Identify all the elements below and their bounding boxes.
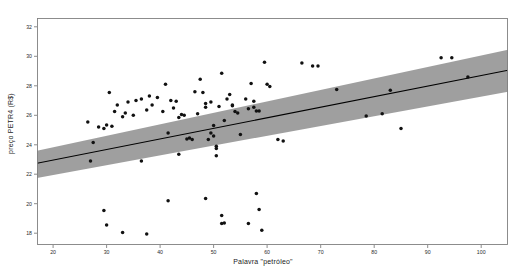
x-tick-label: 40 <box>157 249 163 255</box>
x-axis-title: Palavra "petróleo" <box>0 258 526 265</box>
data-point <box>169 99 173 103</box>
data-point <box>300 61 304 65</box>
data-point <box>389 88 393 92</box>
data-point <box>145 232 149 236</box>
data-point <box>132 114 136 118</box>
data-point <box>364 114 368 118</box>
x-tick-label: 100 <box>477 249 486 255</box>
data-point <box>166 131 170 135</box>
data-point <box>252 100 256 104</box>
data-point <box>196 112 200 116</box>
y-tick-label: 22 <box>26 171 32 177</box>
data-point <box>257 208 261 212</box>
data-point <box>150 103 154 107</box>
data-point <box>172 106 176 110</box>
data-point <box>228 93 232 97</box>
data-point <box>174 100 178 104</box>
data-point <box>97 125 101 129</box>
y-tick-label: 30 <box>26 53 32 59</box>
data-point <box>105 223 109 227</box>
data-point <box>89 159 93 163</box>
data-point <box>190 138 194 142</box>
data-point <box>102 209 106 213</box>
data-point <box>121 115 125 119</box>
data-point <box>281 139 285 143</box>
data-point <box>140 159 144 163</box>
data-point <box>252 105 256 109</box>
data-point <box>124 111 128 115</box>
data-point <box>113 110 117 114</box>
y-tick-label: 32 <box>26 24 32 30</box>
data-point <box>249 82 253 86</box>
x-tick-label: 60 <box>264 249 270 255</box>
data-point <box>204 105 208 109</box>
data-point <box>311 64 315 68</box>
data-point <box>177 153 181 157</box>
data-point <box>260 229 264 233</box>
data-point <box>236 111 240 115</box>
data-point <box>223 119 227 123</box>
data-point <box>156 96 160 100</box>
y-tick-label: 24 <box>26 142 32 148</box>
data-point <box>166 199 170 203</box>
data-point <box>223 221 227 225</box>
data-point <box>102 127 106 131</box>
data-point <box>198 77 202 81</box>
data-point <box>108 91 112 95</box>
data-point <box>204 102 208 106</box>
data-point <box>215 154 219 158</box>
data-point <box>220 214 224 218</box>
x-tick-label: 30 <box>104 249 110 255</box>
data-point <box>148 94 152 98</box>
data-point <box>316 64 320 68</box>
data-point <box>265 83 269 87</box>
y-tick-label: 18 <box>26 230 32 236</box>
data-point <box>239 133 243 137</box>
chart-canvas: 18202224262830322030405060708090100 <box>0 0 526 279</box>
data-point <box>164 83 168 87</box>
data-point <box>182 114 186 118</box>
data-point <box>177 116 181 120</box>
data-point <box>207 138 211 142</box>
data-point <box>450 56 454 60</box>
data-point <box>466 75 470 79</box>
y-tick-label: 28 <box>26 83 32 89</box>
data-point <box>231 103 235 107</box>
data-point <box>145 108 149 112</box>
y-axis-title: preço PETR4 (R$) <box>7 74 14 174</box>
data-point <box>268 85 272 89</box>
data-point <box>209 131 213 135</box>
data-point <box>134 99 138 103</box>
data-point <box>212 134 216 138</box>
data-point <box>105 123 109 127</box>
data-point <box>204 197 208 201</box>
data-point <box>91 141 95 145</box>
data-point <box>255 192 259 196</box>
data-point <box>220 72 224 76</box>
x-tick-label: 80 <box>371 249 377 255</box>
data-point <box>257 109 261 113</box>
y-tick-label: 20 <box>26 201 32 207</box>
x-tick-label: 90 <box>425 249 431 255</box>
data-point <box>86 120 90 124</box>
data-point <box>201 91 205 95</box>
data-point <box>217 105 221 109</box>
data-point <box>399 127 403 131</box>
data-point <box>126 100 130 104</box>
data-point <box>263 60 267 64</box>
data-point <box>276 138 280 142</box>
data-point <box>121 231 125 235</box>
data-point <box>225 97 229 101</box>
data-point <box>244 97 248 101</box>
x-tick-label: 20 <box>50 249 56 255</box>
data-point <box>439 56 443 60</box>
data-point <box>110 125 114 129</box>
data-point <box>215 147 219 151</box>
x-tick-label: 50 <box>211 249 217 255</box>
data-point <box>380 112 384 116</box>
data-point <box>247 107 251 111</box>
scatter-plot-figure: 18202224262830322030405060708090100 Pala… <box>0 0 526 279</box>
data-point <box>161 110 165 114</box>
data-point <box>209 100 213 104</box>
data-point <box>193 90 197 94</box>
